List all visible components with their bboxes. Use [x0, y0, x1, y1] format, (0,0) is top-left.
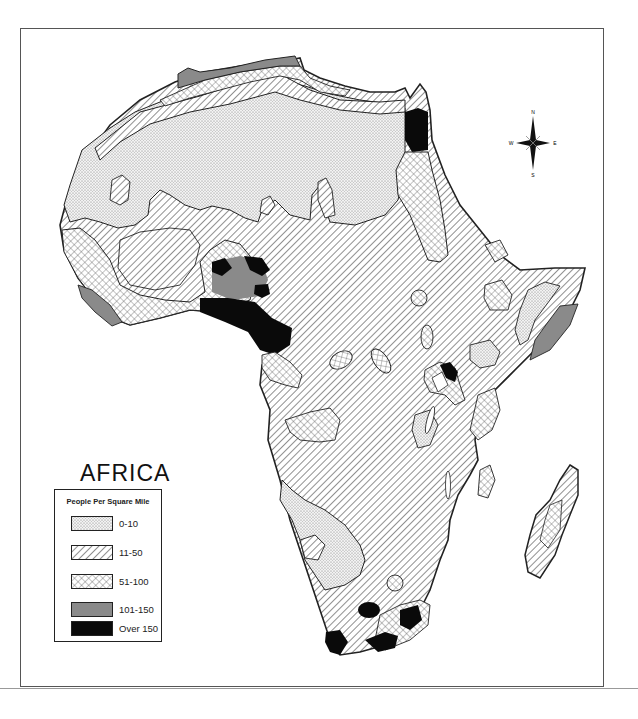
- compass-n: N: [531, 109, 535, 115]
- region-blob-1: [411, 290, 427, 306]
- gray-swatch: [71, 602, 113, 617]
- legend-label: 51-100: [119, 576, 149, 587]
- region-sa-crosshatch-small: [387, 575, 403, 591]
- legend-label: 0-10: [119, 518, 138, 529]
- legend-label: Over 150: [119, 623, 158, 634]
- region-sa-black-1: [358, 602, 380, 618]
- compass-s: S: [531, 172, 535, 178]
- dots-pattern-swatch: [71, 516, 113, 531]
- legend-label: 101-150: [119, 604, 154, 615]
- black-swatch: [71, 621, 113, 636]
- region-nile-delta-black: [405, 108, 428, 152]
- legend-item-11-50: 11-50: [71, 544, 143, 560]
- legend-item-over-150: Over 150: [71, 620, 158, 636]
- diagonal-hatch-swatch: [71, 545, 113, 560]
- region-blob-2: [421, 325, 433, 349]
- legend-item-101-150: 101-150: [71, 601, 154, 617]
- region-sahara-hatch-1: [110, 175, 130, 205]
- legend-item-0-10: 0-10: [71, 515, 138, 531]
- legend: People Per Square Mile 0-10 11-50 51-100…: [54, 489, 162, 642]
- legend-label: 11-50: [119, 547, 143, 558]
- region-lake-malawi: [446, 471, 451, 499]
- map-title: AFRICA: [80, 460, 170, 487]
- bottom-divider: [0, 688, 638, 689]
- region-east-coast-dots: [478, 465, 495, 498]
- legend-heading: People Per Square Mile: [55, 497, 161, 506]
- compass-w: W: [509, 140, 514, 146]
- compass-e: E: [553, 140, 557, 146]
- cross-hatch-swatch: [71, 574, 113, 589]
- compass-rose-icon: N S W E: [508, 108, 558, 178]
- legend-item-51-100: 51-100: [71, 573, 149, 589]
